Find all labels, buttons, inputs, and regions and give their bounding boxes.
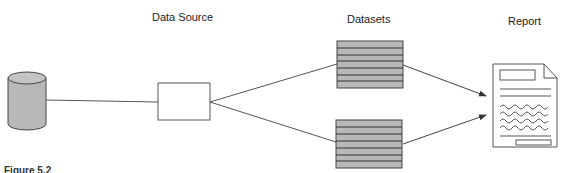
edge-source-to-dataset-2 xyxy=(210,102,336,142)
data-source-box xyxy=(158,83,210,120)
dataset-1-table xyxy=(337,41,403,88)
edge-dataset-1-to-report xyxy=(403,65,486,96)
dataset-2-table xyxy=(336,120,402,168)
figure-caption: Figure 5.2 xyxy=(4,165,51,173)
edge-dataset-2-to-report xyxy=(403,115,486,144)
diagram-canvas xyxy=(0,0,562,173)
edge-database-to-source xyxy=(46,100,158,102)
edge-source-to-dataset-1 xyxy=(210,64,337,102)
database-icon xyxy=(8,72,46,130)
report-document-icon xyxy=(493,64,557,147)
